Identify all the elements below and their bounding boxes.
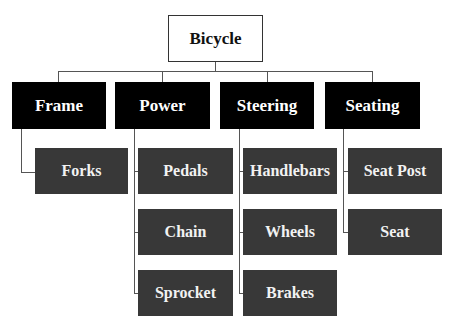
category-label: Seating <box>346 96 400 116</box>
leaf-wheels: Wheels <box>243 209 337 255</box>
connector <box>162 71 163 82</box>
leaf-seat: Seat <box>348 209 442 255</box>
category-label: Power <box>139 96 185 116</box>
connector <box>21 172 35 173</box>
leaf-label: Brakes <box>266 284 314 302</box>
leaf-label: Seat Post <box>364 162 427 180</box>
leaf-label: Sprocket <box>155 284 216 302</box>
leaf-label: Seat <box>380 223 409 241</box>
connector <box>267 71 268 82</box>
leaf-forks: Forks <box>35 148 128 194</box>
connector <box>372 71 373 82</box>
leaf-handlebars: Handlebars <box>243 148 337 194</box>
leaf-chain: Chain <box>138 209 233 255</box>
connector <box>134 129 135 294</box>
leaf-label: Forks <box>62 162 102 180</box>
category-steering: Steering <box>220 82 314 129</box>
leaf-pedals: Pedals <box>138 148 233 194</box>
connector <box>239 129 240 294</box>
root-label: Bicycle <box>190 29 242 49</box>
connector <box>21 129 22 173</box>
leaf-label: Pedals <box>163 162 207 180</box>
category-seating: Seating <box>325 82 420 129</box>
category-label: Steering <box>237 96 297 116</box>
leaf-seat-post: Seat Post <box>348 148 442 194</box>
root-node-bicycle: Bicycle <box>168 15 263 62</box>
category-power: Power <box>115 82 210 129</box>
category-frame: Frame <box>12 82 106 129</box>
leaf-sprocket: Sprocket <box>138 270 233 316</box>
leaf-label: Chain <box>165 223 207 241</box>
connector <box>58 71 373 72</box>
category-label: Frame <box>35 96 83 116</box>
leaf-brakes: Brakes <box>243 270 337 316</box>
connector <box>58 71 59 82</box>
connector <box>343 129 344 233</box>
leaf-label: Wheels <box>265 223 315 241</box>
leaf-label: Handlebars <box>250 162 330 180</box>
